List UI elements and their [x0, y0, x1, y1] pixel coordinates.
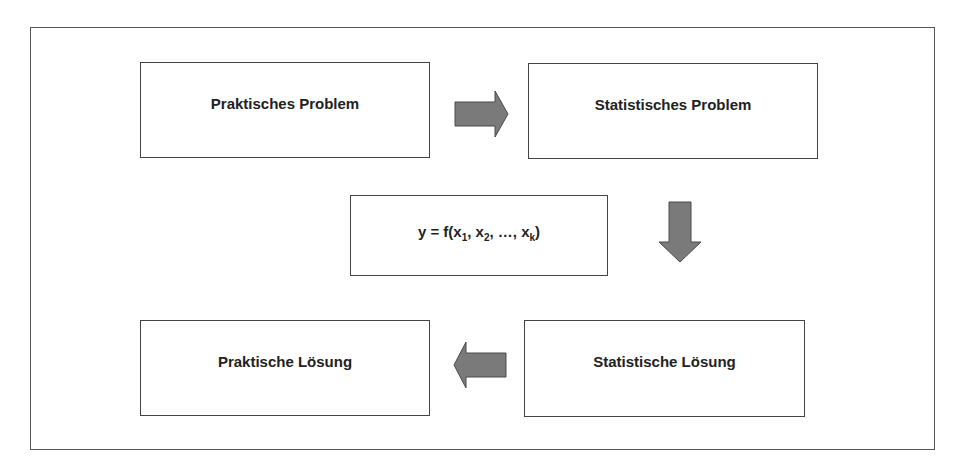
formula-lhs: y = f( [418, 223, 453, 240]
node-praktische-loesung: Praktische Lösung [140, 320, 430, 416]
formula-separator: , …, [490, 223, 522, 240]
arrow-down-icon [658, 202, 702, 264]
formula-var: x [476, 223, 484, 240]
node-label: Praktisches Problem [211, 95, 359, 112]
formula-var: x [453, 223, 461, 240]
node-modell-formel: y = f(x1, x2, …, xk) [350, 195, 608, 276]
formula-separator: ) [535, 223, 540, 240]
node-statistische-loesung: Statistische Lösung [524, 320, 805, 417]
formula-separator: , [467, 223, 475, 240]
node-label: Praktische Lösung [218, 353, 352, 370]
node-label: Statistische Lösung [593, 353, 736, 370]
formula-var: x [521, 223, 529, 240]
node-praktisches-problem: Praktisches Problem [140, 62, 430, 158]
formula: y = f(x1, x2, …, xk) [418, 223, 540, 240]
node-statistisches-problem: Statistisches Problem [528, 63, 818, 159]
node-label: Statistisches Problem [595, 96, 752, 113]
arrow-left-icon [454, 342, 508, 390]
arrow-right-icon [455, 91, 509, 139]
